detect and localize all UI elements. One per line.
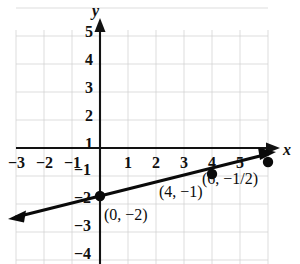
x-axis-label: x <box>283 142 291 158</box>
point-annotation: (0, −2) <box>104 207 148 223</box>
y-axis-label: y <box>92 3 99 19</box>
coordinate-plane <box>0 0 300 264</box>
y-tick-label: 1 <box>85 136 93 152</box>
x-tick-label: 5 <box>236 155 244 171</box>
x-tick-label: 3 <box>180 155 188 171</box>
y-tick-label: −3 <box>74 218 91 234</box>
y-tick-label: −4 <box>74 246 91 262</box>
x-tick-label: 4 <box>208 155 216 171</box>
point-annotation: (4, −1) <box>159 184 203 200</box>
y-tick-label: 3 <box>85 80 93 96</box>
data-point <box>263 157 273 167</box>
y-tick-label: −1 <box>74 162 91 178</box>
y-tick-label: −2 <box>74 190 91 206</box>
grid-lines <box>16 8 268 264</box>
x-tick-label: 2 <box>152 155 160 171</box>
x-tick-label: 1 <box>124 155 132 171</box>
data-point <box>95 191 105 201</box>
point-annotation: (6, −1/2) <box>202 171 258 187</box>
y-tick-label: 2 <box>85 108 93 124</box>
x-tick-label: −2 <box>36 155 53 171</box>
x-tick-label: −3 <box>8 155 25 171</box>
x-axis <box>16 143 280 154</box>
y-axis <box>95 18 106 264</box>
graph-figure: x y −3 −2 −1 1 2 3 4 5 5 4 3 2 1 −1 −2 −… <box>0 0 300 264</box>
y-tick-label: 5 <box>85 24 93 40</box>
y-tick-label: 4 <box>85 52 93 68</box>
